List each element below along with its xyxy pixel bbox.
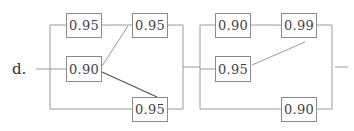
component-box-h: 0.90 xyxy=(281,97,317,122)
component-box-g: 0.95 xyxy=(215,56,251,82)
component-box-b: 0.90 xyxy=(66,56,102,82)
problem-label: d. xyxy=(12,60,26,78)
component-box-f: 0.99 xyxy=(281,13,317,38)
component-box-a: 0.95 xyxy=(66,13,102,38)
component-box-e: 0.90 xyxy=(215,13,251,38)
component-box-c: 0.95 xyxy=(132,13,168,38)
component-box-d: 0.95 xyxy=(132,97,168,122)
